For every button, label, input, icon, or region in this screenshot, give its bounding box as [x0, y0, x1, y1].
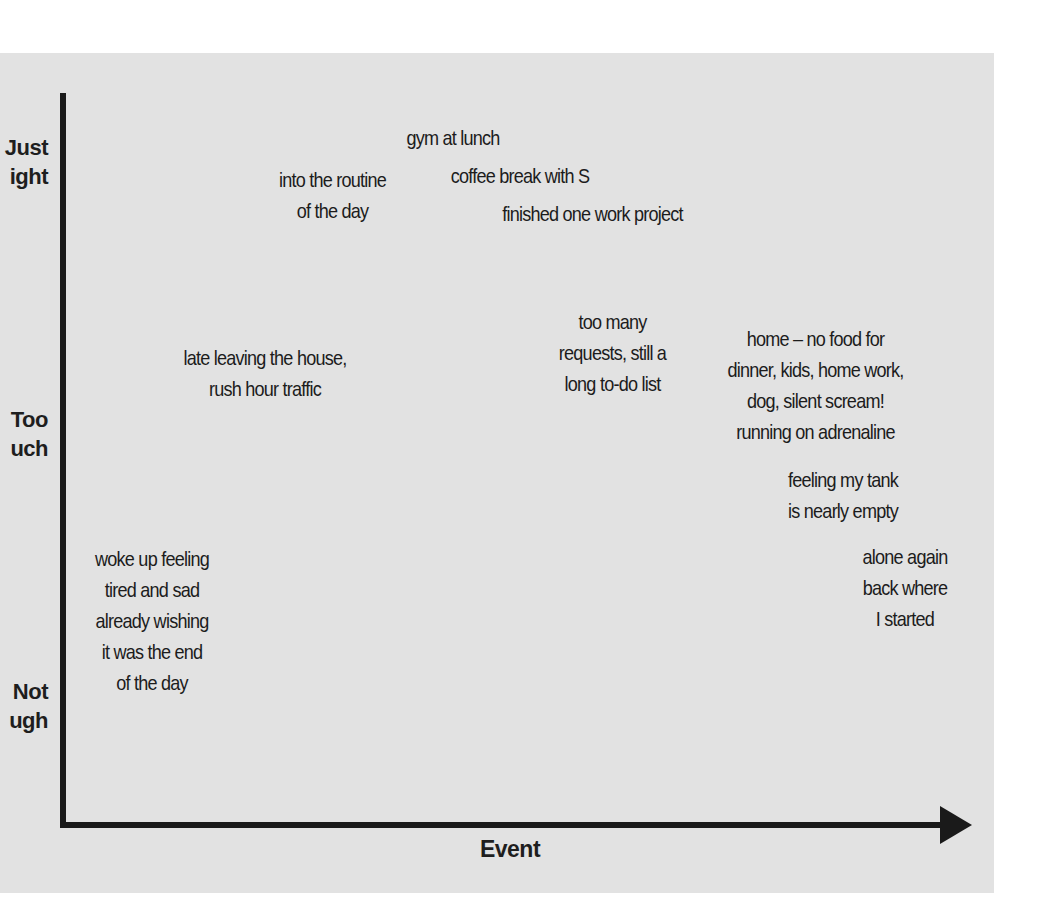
y-level-too-much: Too uch [0, 405, 48, 463]
note-woke-up: woke up feeling tired and sad already wi… [75, 543, 230, 698]
note-coffee-break: coffee break with S [425, 160, 614, 191]
note-tank-empty: feeling my tank is nearly empty [761, 464, 924, 526]
note-too-many-requests: too many requests, still a long to-do li… [533, 306, 692, 399]
y-level-just-right: Just ight [0, 133, 48, 191]
note-alone-again: alone again back where I started [841, 541, 970, 634]
x-axis-arrow-icon [940, 806, 972, 844]
note-into-routine: into the routine of the day [249, 164, 417, 226]
x-axis-title: Event [470, 836, 550, 863]
y-axis-line [60, 93, 66, 828]
note-home-no-food: home – no food for dinner, kids, home wo… [702, 323, 930, 447]
note-finished-project: finished one work project [461, 198, 723, 229]
note-gym-lunch: gym at lunch [384, 122, 522, 153]
y-level-not-enough: Not ugh [0, 677, 48, 735]
note-late-leaving: late leaving the house, rush hour traffi… [158, 342, 373, 404]
x-axis-line [60, 822, 950, 828]
